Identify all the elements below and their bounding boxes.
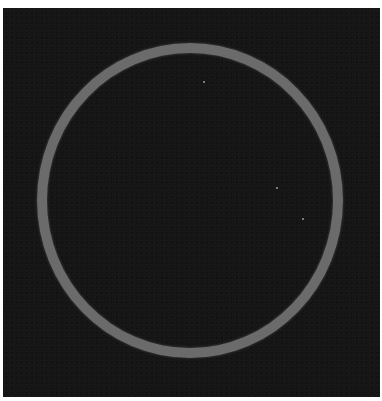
speck xyxy=(203,81,205,83)
gray-ring xyxy=(37,43,343,358)
speck xyxy=(276,187,278,189)
image-canvas xyxy=(0,0,382,401)
speck xyxy=(302,218,304,220)
